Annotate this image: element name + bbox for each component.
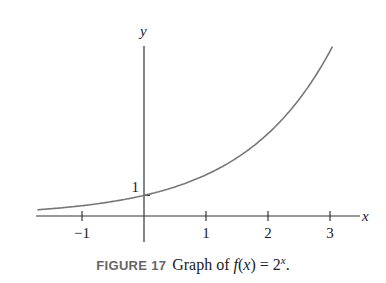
y-axis-label: y bbox=[138, 23, 147, 39]
caption-text: Graph of bbox=[172, 256, 233, 273]
x-tick-label: 3 bbox=[326, 225, 334, 241]
caption-period: . bbox=[286, 256, 290, 273]
x-axis-label: x bbox=[361, 208, 369, 224]
axis-ticks: −11231 bbox=[74, 179, 334, 241]
caption-eq: = 2 bbox=[256, 256, 281, 273]
figure-caption: FIGURE 17Graph of f(x) = 2x. bbox=[0, 254, 386, 274]
x-tick-label: −1 bbox=[74, 225, 90, 241]
y-tick-label: 1 bbox=[132, 179, 140, 195]
x-tick-label: 1 bbox=[202, 225, 210, 241]
x-tick-label: 2 bbox=[264, 225, 272, 241]
figure: −11231 x y FIGURE 17Graph of f(x) = 2x. bbox=[0, 0, 386, 283]
plot-area: −11231 x y bbox=[0, 0, 386, 250]
function-curve bbox=[37, 47, 332, 210]
figure-number: FIGURE 17 bbox=[96, 258, 166, 273]
